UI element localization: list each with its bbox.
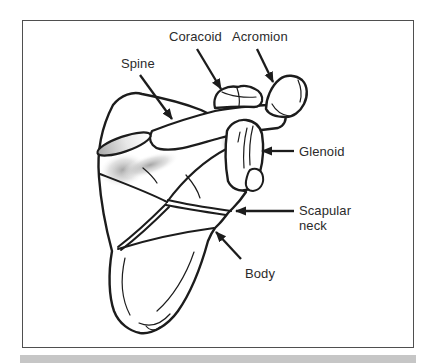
acromion-label: Acromion <box>232 29 288 44</box>
coracoid-arrow <box>197 49 221 89</box>
spine-label: Spine <box>121 56 155 71</box>
body-arrow <box>216 232 241 259</box>
scapular-neck-label: Scapular neck <box>299 203 371 233</box>
scapula-illustration <box>0 0 434 364</box>
coracoid-label: Coracoid <box>169 29 222 44</box>
coracoid-knob <box>214 86 262 108</box>
glenoid-block <box>226 120 264 191</box>
acromion-arrow <box>257 49 273 82</box>
caption-bar <box>20 355 416 363</box>
glenoid-label: Glenoid <box>299 144 345 159</box>
figure-page: Spine Coracoid Acromion Glenoid Scapular… <box>0 0 434 364</box>
body-label: Body <box>245 266 275 281</box>
scapula-drawing <box>95 76 307 334</box>
